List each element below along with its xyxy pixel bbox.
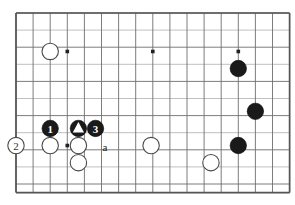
black-stone[interactable] — [230, 60, 246, 76]
stone-b-marked-triangle[interactable] — [70, 120, 86, 136]
stone-b-move-3[interactable]: 3 — [87, 120, 103, 136]
star-point-lower-left-icon — [66, 144, 70, 148]
star-point-right-icon — [237, 50, 241, 54]
star-point-center-icon — [151, 50, 155, 54]
go-diagram: 123a — [0, 0, 295, 205]
white-stone[interactable] — [42, 137, 58, 153]
stone-b-right-upper[interactable] — [230, 60, 246, 76]
stone-b-move-1[interactable]: 1 — [42, 120, 58, 136]
stone-w-mid-right[interactable] — [143, 137, 159, 153]
stone-w-center-base[interactable] — [70, 137, 86, 153]
stone-label: 3 — [93, 123, 99, 135]
white-stone[interactable] — [143, 137, 159, 153]
stone-label: 2 — [13, 140, 19, 152]
white-stone[interactable] — [70, 154, 86, 170]
stone-w-upper-left[interactable] — [42, 43, 58, 59]
stone-w-left-base[interactable] — [42, 137, 58, 153]
stone-b-right-lower[interactable] — [230, 137, 246, 153]
stone-w-move-2[interactable]: 2 — [8, 137, 24, 153]
black-stone[interactable] — [247, 103, 263, 119]
stone-label: 1 — [47, 123, 53, 135]
white-stone[interactable] — [203, 154, 219, 170]
stone-b-right-middle[interactable] — [247, 103, 263, 119]
star-point-left-icon — [66, 50, 70, 54]
point-labels: a — [102, 141, 107, 153]
white-stone[interactable] — [70, 137, 86, 153]
stone-w-bottom-right[interactable] — [203, 154, 219, 170]
black-stone[interactable] — [230, 137, 246, 153]
go-board-canvas: 123a — [0, 0, 295, 205]
white-stone[interactable] — [42, 43, 58, 59]
stone-w-center-below[interactable] — [70, 154, 86, 170]
grid-lines — [16, 13, 290, 193]
point-label-a: a — [102, 141, 107, 153]
